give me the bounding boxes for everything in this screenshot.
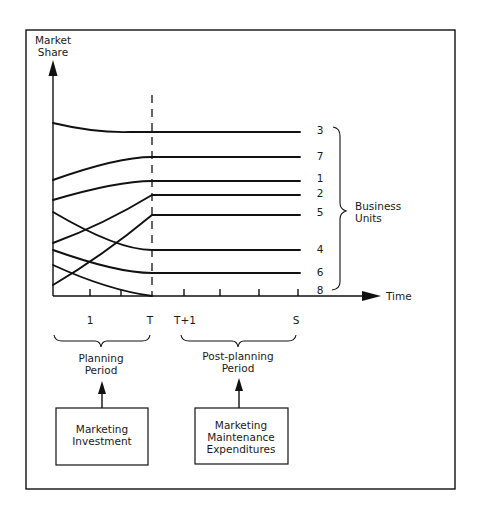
x-axis-label: Time (385, 290, 412, 302)
arrow-up-icon (235, 378, 243, 391)
post-planning-period-brace (181, 335, 296, 347)
investment-arrow (98, 381, 106, 408)
arrow-up-icon (98, 381, 106, 394)
post-planning-period-label-line1: Post-planning (202, 350, 273, 362)
business-unit-label-8: 8 (317, 284, 324, 296)
marketing-maintenance-box: Marketing Maintenance Expenditures (195, 408, 288, 464)
time-label-T-plus-1: T+1 (173, 314, 196, 326)
market-share-diagram: Market Share Time 37125468 Business Unit… (0, 0, 477, 511)
planning-period-brace (54, 335, 150, 347)
time-label-S: S (293, 314, 300, 326)
time-label-1: 1 (87, 314, 94, 326)
box-text-line: Marketing (76, 423, 128, 435)
business-unit-label-2: 2 (317, 187, 324, 199)
business-unit-label-4: 4 (317, 243, 324, 255)
business-unit-label-6: 6 (317, 266, 324, 278)
business-unit-curve-2 (53, 195, 300, 243)
arrow-up-icon (49, 60, 58, 76)
business-unit-curve-1 (53, 181, 300, 200)
arrow-right-icon (362, 291, 381, 301)
time-tick-labels: 1 T T+1 S (87, 314, 300, 326)
box-text-line: Expenditures (207, 443, 276, 455)
diagram-figure: Market Share Time 37125468 Business Unit… (0, 0, 477, 511)
business-unit-label-3: 3 (317, 124, 324, 136)
business-units-brace (332, 127, 346, 290)
business-unit-labels: 37125468 (317, 124, 324, 296)
business-unit-curve-8 (53, 265, 152, 296)
x-axis (53, 291, 381, 301)
business-unit-label-5: 5 (317, 206, 324, 218)
box-text-line: Maintenance (207, 431, 275, 443)
box-text-line: Investment (72, 435, 131, 447)
time-label-T: T (146, 314, 154, 326)
business-unit-curve-6 (53, 250, 300, 273)
business-unit-label-1: 1 (317, 172, 324, 184)
business-units-label-line2: Units (355, 212, 382, 224)
business-unit-curve-4 (53, 212, 300, 250)
business-unit-curve-3 (53, 123, 300, 132)
maintenance-arrow (235, 378, 243, 408)
y-axis-label-line1: Market (35, 34, 71, 46)
business-units-label-line1: Business (355, 200, 401, 212)
business-unit-curves (53, 123, 300, 296)
planning-period-label-line1: Planning (78, 352, 123, 364)
planning-period-label-line2: Period (85, 364, 118, 376)
box-text-line: Marketing (215, 419, 267, 431)
business-unit-label-7: 7 (317, 150, 324, 162)
business-unit-curve-7 (53, 157, 300, 180)
marketing-investment-box: Marketing Investment (56, 408, 148, 465)
post-planning-period-label-line2: Period (222, 362, 255, 374)
y-axis-label-line2: Share (38, 46, 68, 58)
